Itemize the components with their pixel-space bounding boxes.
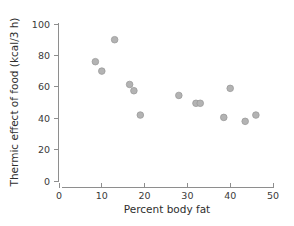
y-axis-title: Thermic effect of food (kcal/3 h): [8, 18, 20, 188]
data-point: [126, 81, 133, 88]
data-point: [137, 112, 144, 119]
y-axis-ticks: [54, 24, 59, 181]
y-tick-label: 80: [38, 50, 50, 61]
data-point: [242, 118, 249, 125]
y-tick-label: 60: [38, 81, 50, 92]
x-tick-label: 50: [267, 190, 279, 201]
y-tick-label: 0: [44, 176, 50, 187]
plot-canvas: 020406080100 01020304050 Percent body fa…: [0, 0, 294, 226]
data-point: [111, 36, 118, 43]
x-tick-label: 20: [139, 190, 151, 201]
data-point: [92, 58, 99, 65]
data-point: [220, 114, 227, 121]
scatter-plot-figure: 020406080100 01020304050 Percent body fa…: [0, 0, 294, 226]
data-point: [99, 68, 106, 75]
data-point: [197, 100, 204, 107]
x-tick-label: 30: [181, 190, 193, 201]
data-point: [176, 92, 183, 99]
x-tick-label: 0: [56, 190, 62, 201]
x-tick-label: 40: [224, 190, 236, 201]
data-points-group: [92, 36, 259, 124]
y-tick-label: 20: [38, 144, 50, 155]
x-axis: 01020304050: [56, 183, 279, 202]
data-point: [227, 85, 234, 92]
x-axis-title: Percent body fat: [124, 203, 210, 215]
data-point: [131, 87, 138, 94]
x-tick-label: 10: [96, 190, 108, 201]
data-point: [253, 112, 260, 119]
y-tick-label: 100: [32, 19, 50, 30]
x-axis-tick-labels: 01020304050: [56, 190, 279, 201]
y-axis: 020406080100: [32, 19, 59, 187]
y-axis-tick-labels: 020406080100: [32, 19, 50, 187]
x-axis-ticks: [59, 183, 273, 188]
y-tick-label: 40: [38, 113, 50, 124]
